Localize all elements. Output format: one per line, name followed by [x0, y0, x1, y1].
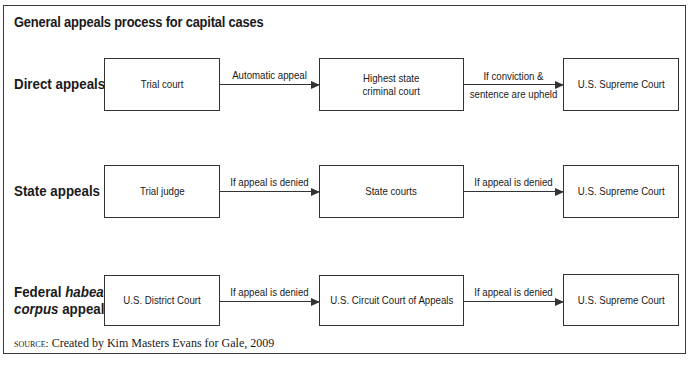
arrow-if-appeal-denied [220, 191, 319, 192]
arrow-label: sentence are upheld [468, 88, 559, 101]
row-label-direct-appeals: Direct appeals [14, 76, 105, 93]
label-part: Federal [14, 284, 65, 300]
box-highest-state-criminal-court: Highest state criminal court [319, 58, 464, 111]
box-label: U.S. Supreme Court [578, 294, 665, 307]
box-label: U.S. Supreme Court [578, 185, 665, 198]
arrow-if-appeal-denied [464, 191, 563, 192]
box-label: U.S. Supreme Court [578, 78, 665, 91]
row-label-federal-habeas-corpus-appeals: Federal habeascorpus appeals [14, 284, 112, 318]
label-part-italic: corpus [14, 301, 58, 317]
box-label: U.S. Circuit Court of Appeals [330, 294, 453, 307]
box-label: Trial court [141, 78, 184, 91]
arrow-if-appeal-denied [464, 301, 563, 302]
diagram-title: General appeals process for capital case… [14, 14, 263, 30]
box-label-line: Highest state [363, 72, 420, 85]
box-us-circuit-court-of-appeals: U.S. Circuit Court of Appeals [319, 275, 464, 326]
box-label: State courts [366, 185, 418, 198]
arrow-label: If appeal is denied [468, 286, 559, 299]
box-label: Trial judge [140, 185, 185, 198]
source-note: source: Created by Kim Masters Evans for… [14, 336, 274, 351]
arrow-label: If appeal is denied [224, 176, 315, 189]
arrow-if-appeal-denied [220, 301, 319, 302]
box-us-supreme-court: U.S. Supreme Court [563, 58, 679, 111]
box-us-supreme-court: U.S. Supreme Court [563, 274, 679, 326]
box-label-line: criminal court [363, 85, 420, 98]
box-us-district-court: U.S. District Court [104, 275, 220, 326]
arrow-label: If conviction & [468, 70, 559, 83]
arrow-if-conviction-upheld [464, 84, 563, 85]
box-label: U.S. District Court [123, 294, 200, 307]
arrow-automatic-appeal [220, 84, 319, 85]
box-label: Highest state criminal court [363, 72, 420, 98]
box-state-courts: State courts [319, 165, 464, 218]
arrow-label: If appeal is denied [224, 286, 315, 299]
box-trial-judge: Trial judge [104, 165, 220, 218]
source-prefix: source: [14, 337, 49, 349]
row-label-state-appeals: State appeals [14, 183, 100, 200]
box-us-supreme-court: U.S. Supreme Court [563, 165, 679, 218]
arrow-label: Automatic appeal [224, 69, 315, 82]
arrow-label: If appeal is denied [468, 176, 559, 189]
box-trial-court: Trial court [104, 58, 220, 111]
source-text: Created by Kim Masters Evans for Gale, 2… [49, 336, 275, 350]
